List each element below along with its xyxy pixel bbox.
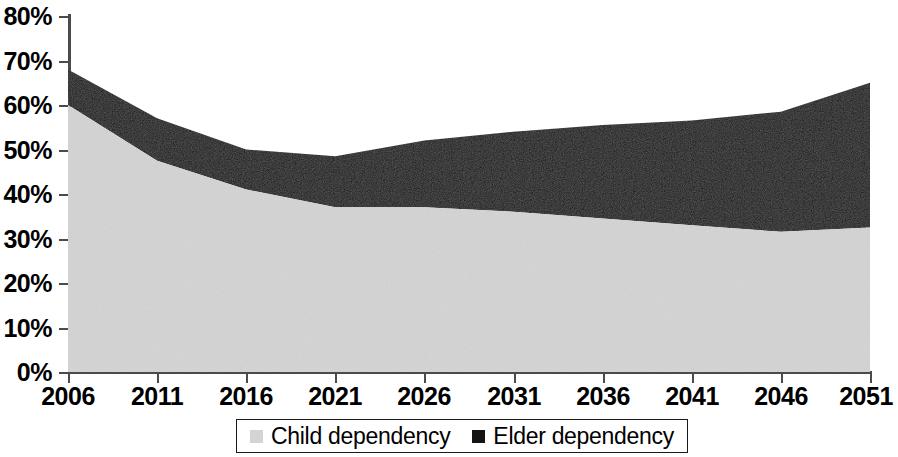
x-axis-label: 2051 — [821, 383, 898, 411]
y-axis-label: 0% — [0, 360, 52, 385]
y-axis-label: 60% — [0, 93, 52, 118]
y-axis-label: 10% — [0, 315, 52, 340]
x-axis-label: 2031 — [469, 383, 559, 411]
x-axis-label: 2016 — [201, 383, 291, 411]
y-axis-label: 30% — [0, 226, 52, 251]
y-axis-labels: 80% 70% 60% 50% 40% 30% 20% 10% 0% — [0, 0, 58, 390]
x-axis-label: 2021 — [290, 383, 380, 411]
chart-legend: Child dependency Elder dependency — [236, 419, 688, 453]
legend-swatch-child-icon — [250, 430, 263, 443]
y-axis-label: 70% — [0, 48, 52, 73]
legend-item-child-dependency: Child dependency — [250, 425, 450, 448]
legend-label: Elder dependency — [493, 425, 674, 448]
x-axis-label: 2046 — [736, 383, 826, 411]
plot-area — [68, 16, 870, 372]
y-axis-label: 80% — [0, 4, 52, 29]
y-axis-label: 50% — [0, 137, 52, 162]
x-axis-label: 2036 — [558, 383, 648, 411]
legend-label: Child dependency — [271, 425, 450, 448]
y-axis-label: 40% — [0, 182, 52, 207]
y-axis-label: 20% — [0, 271, 52, 296]
x-axis-labels: 2006 2011 2016 2021 2026 2031 2036 2041 … — [0, 383, 891, 417]
legend-swatch-elder-icon — [472, 430, 485, 443]
x-axis-label: 2011 — [112, 383, 202, 411]
x-axis-label: 2041 — [647, 383, 737, 411]
x-axis-label: 2006 — [23, 383, 113, 411]
legend-item-elder-dependency: Elder dependency — [472, 425, 674, 448]
x-axis-label: 2026 — [379, 383, 469, 411]
